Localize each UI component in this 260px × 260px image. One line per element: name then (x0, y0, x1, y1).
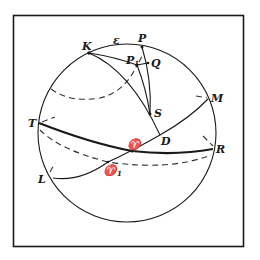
tick-T (42, 117, 55, 122)
point-S (149, 113, 152, 116)
point-aries1 (107, 161, 110, 164)
tick-M (196, 96, 207, 98)
equator-front (39, 123, 213, 153)
celestial-sphere-diagram: P K ε P1 Q S D T R M L ♈ ♈1 (0, 0, 260, 260)
label-P: P (137, 32, 147, 45)
tick-P1 (139, 56, 142, 62)
label-aries: ♈ (127, 138, 143, 151)
label-T: T (28, 117, 37, 130)
tick-L (50, 163, 55, 172)
point-Q (147, 62, 150, 65)
label-epsilon: ε (113, 34, 120, 47)
point-P (141, 46, 144, 49)
label-L: L (37, 173, 46, 186)
figure-frame (14, 16, 244, 247)
tick-R (203, 136, 213, 146)
label-R: R (215, 143, 225, 156)
label-K: K (81, 40, 92, 53)
label-P1: P1 (125, 54, 139, 68)
label-Q: Q (151, 57, 161, 70)
arc-K-D (89, 53, 160, 135)
label-aries1: ♈1 (103, 164, 122, 178)
equator-back-dashed (40, 130, 211, 165)
label-S: S (154, 107, 162, 120)
label-M: M (210, 92, 224, 105)
label-D: D (160, 135, 171, 148)
